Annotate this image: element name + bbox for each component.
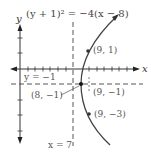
label-point-9-neg1: (9, −1) [93,88,125,97]
diagram-canvas [0,0,151,153]
parabola-diagram: y (y + 1)² = −4(x − 8) x y = −1 x = 7 (9… [0,0,151,153]
label-x-equals-7: x = 7 [48,141,72,150]
label-point-9-neg3: (9, −3) [94,110,126,119]
label-vertex: (8, −1) [31,91,63,100]
label-point-9-1: (9, 1) [93,46,117,55]
equation-label: (y + 1)² = −4(x − 8) [26,9,129,19]
label-y-equals-neg1: y = −1 [24,73,56,82]
parabola-curve [81,16,117,145]
x-axis [10,67,140,72]
point-9-neg3 [87,112,91,116]
point-vertex [79,82,83,86]
x-axis-label: x [142,64,148,74]
y-axis-label: y [16,14,22,24]
vertex-leader-line [61,86,79,95]
point-9-1 [86,49,90,53]
